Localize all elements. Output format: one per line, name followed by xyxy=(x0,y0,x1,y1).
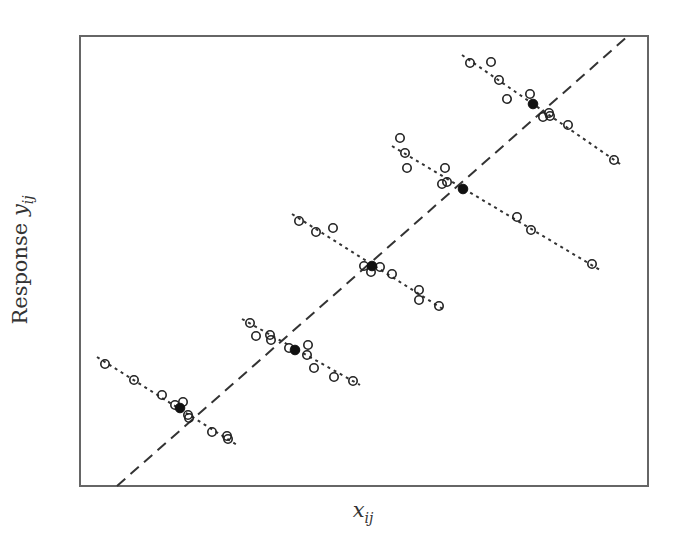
observation-point xyxy=(388,270,396,278)
within-cluster-line xyxy=(392,146,600,270)
cluster-mean-point xyxy=(367,261,377,271)
observation-point xyxy=(246,319,254,327)
cluster-1 xyxy=(97,357,237,445)
observation-point xyxy=(487,58,495,66)
observation-point xyxy=(403,164,411,172)
observation-point xyxy=(330,373,338,381)
observation-point xyxy=(441,164,449,172)
cluster-3 xyxy=(292,214,446,311)
observation-point xyxy=(526,90,534,98)
observation-point xyxy=(252,332,260,340)
cluster-mean-point xyxy=(458,184,468,194)
observation-point xyxy=(415,286,423,294)
observation-point xyxy=(303,351,311,359)
y-axis-symbol: y xyxy=(8,204,32,216)
cluster-mean-point xyxy=(290,345,300,355)
within-cluster-line xyxy=(242,319,360,385)
observation-point xyxy=(329,224,337,232)
observation-point xyxy=(224,435,232,443)
observation-point xyxy=(295,217,303,225)
observation-point xyxy=(415,296,423,304)
scatter-chart xyxy=(0,0,678,553)
observation-point xyxy=(513,213,521,221)
observation-point xyxy=(401,149,409,157)
observation-point xyxy=(503,95,511,103)
y-axis-label: Response yij xyxy=(8,195,35,324)
x-axis-subscript: ij xyxy=(365,510,374,526)
observation-point xyxy=(443,178,451,186)
observation-point xyxy=(588,260,596,268)
cluster-4 xyxy=(392,134,600,270)
plot-frame xyxy=(80,36,648,486)
observation-point xyxy=(304,341,312,349)
x-axis-label: xij xyxy=(353,498,374,525)
observation-point xyxy=(610,156,618,164)
observation-point xyxy=(267,336,275,344)
observation-point xyxy=(208,428,216,436)
observation-point xyxy=(396,134,404,142)
observation-point xyxy=(466,59,474,67)
observation-point xyxy=(310,364,318,372)
cluster-mean-point xyxy=(528,99,538,109)
y-axis-label-text: Response xyxy=(8,216,32,325)
observation-point xyxy=(546,112,554,120)
observation-point xyxy=(185,414,193,422)
observation-point xyxy=(130,376,138,384)
clusters-group xyxy=(97,55,623,445)
observation-point xyxy=(495,76,503,84)
observation-point xyxy=(349,377,357,385)
observation-point xyxy=(564,121,572,129)
x-axis-symbol: x xyxy=(353,498,365,522)
observation-point xyxy=(101,360,109,368)
observation-point xyxy=(435,302,443,310)
observation-point xyxy=(312,228,320,236)
cluster-mean-point xyxy=(175,403,185,413)
cluster-2 xyxy=(242,319,360,385)
y-axis-subscript: ij xyxy=(20,195,36,204)
observation-point xyxy=(527,226,535,234)
observation-point xyxy=(158,391,166,399)
